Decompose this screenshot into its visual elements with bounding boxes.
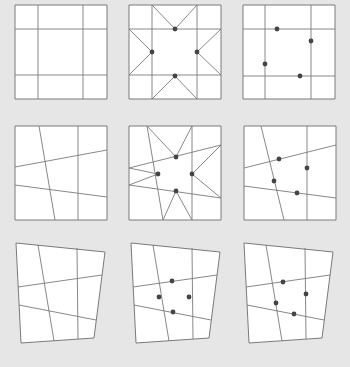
figure-canvas xyxy=(0,0,350,367)
control-point xyxy=(272,179,277,184)
control-point xyxy=(173,74,178,79)
panel-frame xyxy=(244,243,333,343)
control-point xyxy=(309,39,314,44)
control-point xyxy=(150,50,155,55)
panel-frame xyxy=(131,243,220,343)
panel-frame xyxy=(16,243,105,343)
control-point xyxy=(187,295,192,300)
control-point xyxy=(295,191,300,196)
control-point xyxy=(173,27,178,32)
control-point xyxy=(157,295,162,300)
control-point xyxy=(170,279,175,284)
control-point xyxy=(156,172,161,177)
control-point xyxy=(174,189,179,194)
control-point xyxy=(304,292,309,297)
panel-frame xyxy=(15,5,107,99)
control-point xyxy=(292,312,297,317)
control-point xyxy=(174,155,179,160)
panel-frame xyxy=(243,5,335,99)
control-point xyxy=(190,172,195,177)
panel-frame xyxy=(15,126,107,220)
control-point xyxy=(263,62,268,67)
panel-frame xyxy=(129,126,221,220)
control-point xyxy=(195,50,200,55)
control-point xyxy=(171,310,176,315)
control-point xyxy=(274,301,279,306)
panel-frame xyxy=(244,126,336,220)
panel-frame xyxy=(129,5,221,99)
control-point xyxy=(277,157,282,162)
control-point xyxy=(281,280,286,285)
control-point xyxy=(305,166,310,171)
control-point xyxy=(298,74,303,79)
control-point xyxy=(275,27,280,32)
